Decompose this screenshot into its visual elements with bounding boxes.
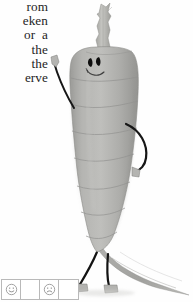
left-leg bbox=[79, 252, 97, 286]
rating-cell-sad[interactable] bbox=[40, 280, 59, 299]
rating-cell-happy[interactable] bbox=[2, 280, 21, 299]
scanned-page: rom eken or a the the erve bbox=[0, 0, 193, 302]
right-leg bbox=[107, 254, 109, 286]
carrot-character-photo bbox=[0, 0, 193, 302]
left-hand bbox=[51, 55, 59, 67]
smiley-face-icon bbox=[5, 283, 18, 296]
ground-shadow bbox=[75, 290, 135, 296]
rating-cell-blank-1[interactable] bbox=[21, 280, 40, 299]
carrot-figure-svg bbox=[0, 0, 193, 302]
frowny-face-icon bbox=[43, 283, 56, 296]
carrot-stem bbox=[96, 3, 112, 49]
rating-cell-blank-2[interactable] bbox=[59, 280, 78, 299]
body-shape bbox=[70, 47, 138, 252]
right-hand bbox=[132, 167, 140, 177]
carrot-body bbox=[70, 47, 138, 252]
rating-icon-strip[interactable] bbox=[1, 279, 79, 300]
